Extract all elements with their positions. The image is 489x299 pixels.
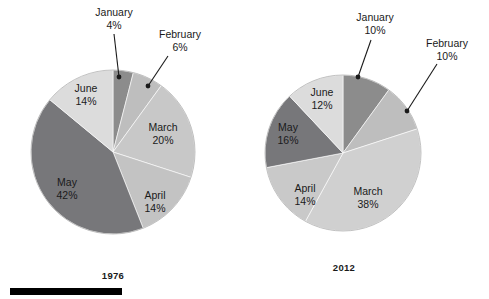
pie-chart-2012: January10%February10%March38%April14%May…: [265, 11, 469, 273]
leader-dot-february: [146, 84, 151, 89]
leader-dot-january: [117, 75, 122, 80]
slice-value-may: 16%: [277, 134, 298, 146]
slice-value-january: 4%: [106, 19, 121, 31]
slice-value-march: 38%: [357, 198, 378, 210]
slice-label-february: February: [426, 37, 469, 49]
slice-label-february: February: [159, 28, 202, 40]
pie-chart-1976: January4%February6%March20%April14%May42…: [31, 6, 202, 281]
slice-label-june: June: [75, 82, 98, 94]
slice-value-january: 10%: [364, 24, 385, 36]
slice-value-april: 14%: [144, 202, 165, 214]
slice-label-march: March: [353, 185, 382, 197]
slice-value-june: 14%: [75, 95, 96, 107]
slice-value-march: 20%: [152, 134, 173, 146]
leader-dot-january: [356, 75, 361, 80]
chart-year-label-2012: 2012: [333, 262, 355, 273]
slice-label-january: January: [95, 6, 133, 18]
slice-label-june: June: [311, 86, 334, 98]
leader-line-february: [148, 56, 168, 86]
leader-dot-february: [405, 109, 410, 114]
slice-label-may: May: [57, 176, 78, 188]
slice-label-may: May: [278, 121, 299, 133]
slice-label-march: March: [148, 121, 177, 133]
pie-chart-figure: January4%February6%March20%April14%May42…: [0, 0, 489, 299]
chart-year-label-1976: 1976: [102, 270, 124, 281]
slice-label-april: April: [294, 182, 315, 194]
scale-bar: [10, 288, 122, 295]
slice-value-june: 12%: [311, 99, 332, 111]
slice-label-april: April: [144, 189, 165, 201]
slice-label-january: January: [356, 11, 394, 23]
leader-line-january: [358, 40, 371, 77]
slice-value-february: 6%: [172, 41, 187, 53]
slice-value-april: 14%: [294, 195, 315, 207]
leader-line-february: [407, 64, 437, 111]
figure-canvas: January4%February6%March20%April14%May42…: [0, 0, 489, 299]
slice-value-may: 42%: [56, 189, 77, 201]
slice-value-february: 10%: [436, 50, 457, 62]
